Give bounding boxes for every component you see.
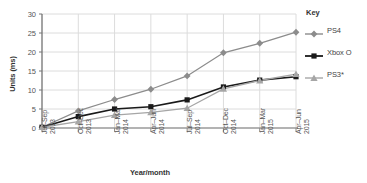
legend-marker-triangle-icon bbox=[304, 69, 324, 79]
x-tick-label-period: Apr–Jun bbox=[295, 109, 302, 134]
x-tick-label-year: 2014 bbox=[230, 119, 237, 134]
data-point-marker bbox=[311, 31, 318, 38]
line-chart: Units (ms) Year/month 051015202530 Jul–S… bbox=[0, 0, 367, 183]
x-tick-label-year: 2015 bbox=[303, 119, 310, 134]
data-point-marker bbox=[147, 86, 154, 93]
x-tick-label-period: Jul–Sep bbox=[41, 110, 48, 134]
y-tick-label: 30 bbox=[28, 10, 36, 19]
data-point-marker bbox=[256, 40, 263, 47]
data-point-marker bbox=[293, 29, 300, 36]
x-tick-label-period: Jul–Sep bbox=[186, 110, 193, 134]
legend-label: PS3* bbox=[327, 70, 344, 79]
x-tick-label-year: 2013 bbox=[85, 119, 92, 134]
y-tick-labels: 051015202530 bbox=[28, 10, 36, 133]
data-point-marker bbox=[185, 97, 190, 102]
legend-item[interactable]: PS3* bbox=[304, 68, 367, 80]
y-tick-label: 10 bbox=[28, 86, 36, 95]
x-tick-label-period: Apr–Jun bbox=[150, 109, 157, 134]
x-tick-label-year: 2015 bbox=[267, 119, 274, 134]
legend-marker-square-icon bbox=[304, 47, 324, 57]
x-tick-label-year: 2014 bbox=[194, 119, 201, 134]
x-tick-label-period: Oct–Dec bbox=[77, 108, 84, 134]
data-point-marker bbox=[311, 53, 316, 58]
y-tick-label: 20 bbox=[28, 48, 36, 57]
legend-rows: PS4Xbox OPS3* bbox=[304, 24, 367, 80]
data-point-marker bbox=[184, 73, 191, 80]
legend-item[interactable]: Xbox O bbox=[304, 46, 367, 58]
x-tick-label-period: Jan–Mar bbox=[259, 108, 266, 134]
legend-label: Xbox O bbox=[327, 48, 351, 57]
data-point-marker bbox=[111, 96, 118, 103]
x-tick-label-year: 2013 bbox=[49, 119, 56, 134]
y-tick-label: 0 bbox=[32, 124, 36, 133]
data-point-marker bbox=[220, 49, 227, 56]
legend-label: PS4 bbox=[327, 26, 341, 35]
y-tick-label: 15 bbox=[28, 67, 36, 76]
legend-item[interactable]: PS4 bbox=[304, 24, 367, 36]
x-tick-label-period: Jan–Mar bbox=[114, 108, 121, 134]
y-tick-label: 25 bbox=[28, 29, 36, 38]
x-tick-label-year: 2014 bbox=[158, 119, 165, 134]
y-tick-label: 5 bbox=[32, 105, 36, 114]
legend: Key PS4Xbox OPS3* bbox=[304, 8, 367, 90]
x-tick-label-period: Oct–Dec bbox=[222, 108, 229, 134]
x-tick-label-year: 2014 bbox=[122, 119, 129, 134]
legend-title: Key bbox=[306, 8, 367, 17]
legend-marker-diamond-icon bbox=[304, 25, 324, 35]
